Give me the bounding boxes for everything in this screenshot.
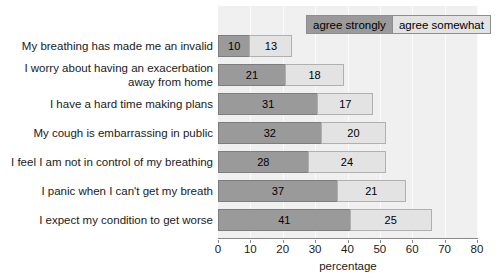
x-axis-title: percentage xyxy=(218,260,478,272)
legend-item-agree-somewhat[interactable]: agree somewhat xyxy=(392,16,490,33)
chart-legend: agree strongly agree somewhat xyxy=(306,15,491,34)
bar-segment-agree-somewhat[interactable]: 24 xyxy=(308,151,387,173)
bar-value-agree-strongly: 31 xyxy=(262,98,274,110)
x-tick-label-20: 20 xyxy=(276,243,289,255)
bar-segment-agree-strongly[interactable]: 37 xyxy=(218,180,338,202)
legend-label-agree-somewhat: agree somewhat xyxy=(399,19,484,31)
x-tick-label-60: 60 xyxy=(406,243,419,255)
bar-value-agree-somewhat: 13 xyxy=(265,40,277,52)
bar-value-agree-strongly: 32 xyxy=(264,127,276,139)
bar-segment-agree-strongly[interactable]: 31 xyxy=(218,93,318,115)
x-axis-line xyxy=(218,238,478,239)
bar-row[interactable]: 1013 xyxy=(218,35,292,57)
bar-row[interactable]: 3721 xyxy=(218,180,406,202)
x-tick-label-30: 30 xyxy=(309,243,322,255)
bar-segment-agree-somewhat[interactable]: 21 xyxy=(337,180,406,202)
bar-segment-agree-strongly[interactable]: 10 xyxy=(218,35,250,57)
bar-value-agree-strongly: 10 xyxy=(228,40,240,52)
bar-segment-agree-strongly[interactable]: 21 xyxy=(218,64,286,86)
bar-segment-agree-somewhat[interactable]: 18 xyxy=(285,64,344,86)
bar-value-agree-somewhat: 25 xyxy=(385,214,397,226)
bar-row[interactable]: 4125 xyxy=(218,209,432,231)
x-tick-label-50: 50 xyxy=(373,243,386,255)
x-tick-label-40: 40 xyxy=(341,243,354,255)
bar-value-agree-somewhat: 20 xyxy=(347,127,359,139)
bar-segment-agree-somewhat[interactable]: 13 xyxy=(249,35,292,57)
bar-value-agree-strongly: 37 xyxy=(272,185,284,197)
x-tick-label-70: 70 xyxy=(438,243,451,255)
bar-segment-agree-somewhat[interactable]: 25 xyxy=(350,209,432,231)
bar-segment-agree-somewhat[interactable]: 20 xyxy=(321,122,387,144)
legend-item-agree-strongly[interactable]: agree strongly xyxy=(307,16,392,33)
legend-label-agree-strongly: agree strongly xyxy=(313,19,386,31)
x-axis-ticks: 01020304050607080 xyxy=(218,240,478,256)
x-tick-label-80: 80 xyxy=(471,243,484,255)
stacked-bar-chart: My breathing has made me an invalidI wor… xyxy=(0,0,503,280)
bar-segment-agree-somewhat[interactable]: 17 xyxy=(317,93,373,115)
bar-value-agree-somewhat: 18 xyxy=(308,69,320,81)
bar-value-agree-somewhat: 21 xyxy=(365,185,377,197)
x-tick-label-10: 10 xyxy=(244,243,257,255)
bar-value-agree-somewhat: 24 xyxy=(341,156,353,168)
bar-value-agree-strongly: 21 xyxy=(246,69,258,81)
bar-segment-agree-strongly[interactable]: 28 xyxy=(218,151,309,173)
bar-row[interactable]: 2824 xyxy=(218,151,386,173)
bar-value-agree-strongly: 41 xyxy=(278,214,290,226)
x-tick-label-0: 0 xyxy=(215,243,221,255)
bar-row[interactable]: 3117 xyxy=(218,93,373,115)
bar-row[interactable]: 3220 xyxy=(218,122,386,144)
bar-segment-agree-strongly[interactable]: 41 xyxy=(218,209,351,231)
bar-value-agree-strongly: 28 xyxy=(257,156,269,168)
bar-row[interactable]: 2118 xyxy=(218,64,344,86)
bar-value-agree-somewhat: 17 xyxy=(339,98,351,110)
bar-segment-agree-strongly[interactable]: 32 xyxy=(218,122,322,144)
